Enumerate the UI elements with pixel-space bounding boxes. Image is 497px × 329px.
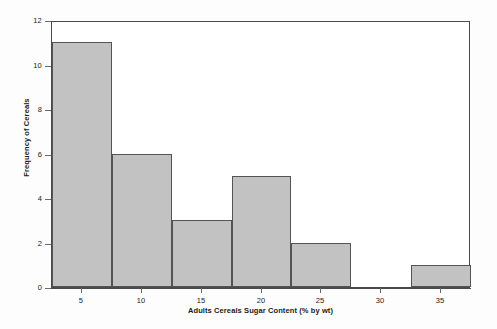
y-tick-mark <box>45 155 51 156</box>
histogram-bar <box>52 42 112 287</box>
histogram-bar <box>291 243 351 288</box>
x-tick-label: 15 <box>186 296 216 305</box>
y-axis-line <box>51 21 52 289</box>
x-tick-label: 10 <box>126 296 156 305</box>
histogram-bar <box>411 265 471 287</box>
histogram-figure: 0 2 4 6 8 10 12 5 10 15 20 25 30 35 Freq… <box>0 0 497 329</box>
x-tick-mark <box>201 288 202 293</box>
x-tick-mark <box>141 288 142 293</box>
y-tick-label: 2 <box>2 239 42 248</box>
x-tick-label: 30 <box>365 296 395 305</box>
y-tick-mark <box>45 288 51 289</box>
histogram-bar <box>232 176 292 287</box>
x-tick-mark <box>440 288 441 293</box>
y-tick-mark <box>45 244 51 245</box>
histogram-bar <box>172 220 232 287</box>
x-tick-mark <box>261 288 262 293</box>
y-tick-label: 12 <box>2 16 42 25</box>
x-tick-mark <box>380 288 381 293</box>
histogram-bar <box>112 154 172 288</box>
x-tick-label: 35 <box>425 296 455 305</box>
x-axis-title: Adults Cereals Sugar Content (% by wt) <box>51 306 470 315</box>
y-tick-mark <box>45 110 51 111</box>
x-tick-label: 25 <box>305 296 335 305</box>
x-tick-label: 5 <box>66 296 96 305</box>
x-tick-mark <box>81 288 82 293</box>
y-axis-title: Frequency of Cereals <box>22 68 31 208</box>
x-tick-mark <box>320 288 321 293</box>
x-tick-label: 20 <box>246 296 276 305</box>
y-tick-label: 0 <box>2 283 42 292</box>
y-tick-mark <box>45 66 51 67</box>
plot-area <box>51 21 470 288</box>
y-tick-mark <box>45 199 51 200</box>
y-tick-mark <box>45 21 51 22</box>
